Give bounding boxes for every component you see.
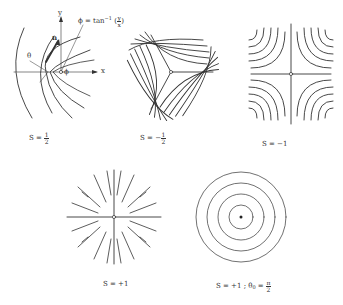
- defect-figure: [0, 0, 343, 305]
- x-axis-label: x: [101, 68, 105, 75]
- n-label: n: [52, 34, 57, 41]
- origin-marker: [59, 70, 62, 73]
- panel-s-plus-one-circular-drawing: [196, 172, 286, 262]
- panel-s-minus-one-drawing: [249, 24, 333, 124]
- panel-s-minus-half-drawing: [117, 32, 226, 128]
- caption-s-minus-half: S = −12: [140, 132, 166, 145]
- phi-label: ϕ: [64, 69, 69, 76]
- x-arrow-icon: [92, 70, 98, 74]
- theta-label: θ: [27, 53, 31, 60]
- caption-s-half: S = 12: [29, 132, 49, 145]
- y-axis-label: y: [58, 10, 62, 17]
- caption-s-plus-one-theta0: S = +1 ; θ0 = π2: [216, 280, 271, 293]
- panel-s-plus-one-radial-drawing: [67, 170, 161, 264]
- caption-s-plus-one: S = +1: [103, 281, 128, 288]
- phi-formula: ϕ = tan−1 (yx): [78, 15, 124, 28]
- core-dot: [240, 216, 243, 219]
- panel-s-half-drawing: [14, 16, 98, 118]
- caption-s-minus-one: S = −1: [262, 141, 287, 148]
